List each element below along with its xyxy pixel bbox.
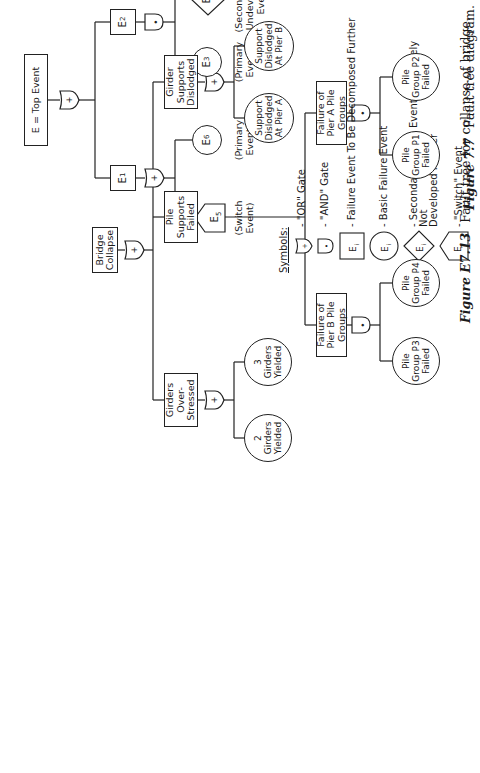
svg-text:+: + — [210, 397, 219, 404]
event-e5-label: E5 — [209, 207, 223, 227]
svg-text:i: i — [353, 243, 360, 245]
svg-text:+: + — [65, 97, 74, 104]
legend-symbols: +• Ei Ei Ei Ei — [292, 225, 472, 265]
support-dislodged-pier-a-circle: Support Dislodged At Pier A — [244, 93, 294, 143]
svg-text:i: i — [420, 243, 427, 245]
svg-text:i: i — [385, 243, 392, 245]
svg-text:+: + — [301, 243, 309, 249]
rotated-page: ++ ++ ++ • • • E = Top Event E1 E2 E5 E6… — [0, 0, 480, 773]
event-e6-circle: E6 — [192, 125, 222, 155]
legend-rectangle: - Failure Event To Be Decomposed Further — [346, 18, 357, 227]
bridge-collapse-box: Bridge Collapse — [92, 227, 118, 273]
svg-text:+: + — [210, 79, 219, 86]
svg-text:E: E — [415, 246, 425, 252]
svg-text:•: • — [358, 322, 368, 327]
svg-text:•: • — [151, 19, 161, 24]
two-girders-yielded-circle: 2 Girders Yielded — [244, 414, 292, 462]
legend-or-gate: - "OR" Gate — [296, 169, 307, 227]
event-e4-label: E4 — [201, 0, 215, 8]
svg-text:E: E — [348, 246, 358, 252]
girders-over-stressed-box: Girders Over- Stressed — [164, 373, 198, 427]
failure-pier-b-pile-groups-box: Failure of Pier B Pile Groups — [316, 293, 347, 357]
pile-group-p1-failed-circle: Pile Group P1 Failed — [392, 131, 440, 179]
annotation-e5: (Switch Event) — [233, 193, 255, 243]
top-event-box: E = Top Event — [24, 54, 48, 146]
support-dislodged-pier-b-circle: Support Dislodged At Pier B — [244, 21, 294, 71]
legend-circle: - Basic Failure Event — [378, 126, 389, 227]
pile-group-p2-failed-circle: Pile Group P2 Failed — [392, 53, 440, 101]
svg-text:E: E — [380, 246, 390, 252]
girder-supports-dislodged-box: Girder Supports Dislodged — [164, 55, 198, 109]
legend-title: Symbols: — [278, 227, 289, 273]
pile-group-p3-failed-circle: Pile Group P3 Failed — [392, 337, 440, 385]
svg-text:+: + — [130, 247, 139, 254]
caption-figure-e7-13: Figure E7.13Fault tree for collapse of b… — [458, 17, 473, 323]
pile-group-p4-failed-circle: Pile Group P4 Failed — [392, 259, 440, 307]
svg-text:+: + — [150, 175, 159, 182]
pile-supports-failed-box: Pile Supports Failed — [164, 191, 198, 243]
event-e2-box: E2 — [110, 9, 136, 35]
event-e1-box: E1 — [110, 165, 136, 191]
failure-pier-a-pile-groups-box: Failure of Pier A Pile Groups — [316, 81, 347, 145]
or-gates — [60, 73, 224, 409]
legend: Symbols: +• Ei Ei Ei Ei - "OR" Gate - "A… — [270, 33, 480, 273]
legend-and-gate: - "AND" Gate — [319, 162, 330, 227]
svg-text:•: • — [323, 244, 331, 248]
three-girders-yielded-circle: 3 Girders Yielded — [244, 338, 292, 386]
